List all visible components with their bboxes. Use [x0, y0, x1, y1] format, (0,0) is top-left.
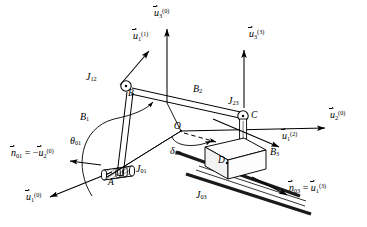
label-vector-u1-1: u1(1) — [133, 31, 148, 42]
vector-u3-0-sup: (0) — [162, 7, 169, 14]
label-angle-delta03: δ03 — [170, 146, 181, 157]
n03-rhs-sup: (3) — [319, 182, 326, 189]
axis-u2-0 — [182, 128, 325, 131]
label-body-b2: B2 — [193, 84, 202, 95]
vector-u1-2-sup: (2) — [290, 130, 297, 137]
angle-theta01-arc — [82, 102, 153, 196]
link-b1 — [117, 92, 133, 176]
body-b3-block — [205, 138, 266, 179]
n03-arrow — [252, 177, 287, 195]
label-joint-j03: J03 — [196, 190, 207, 201]
vector-u3-3-sup: (3) — [257, 28, 264, 35]
body-b1-index: 1 — [86, 115, 89, 122]
figure-canvas: u3(0) u1(1) u3(3) u2(0) u1(2) u1(0) n01 … — [0, 0, 367, 227]
label-point-d: D — [218, 156, 225, 166]
label-point-o: O — [174, 122, 181, 132]
vector-u1-1-base: u — [133, 31, 138, 41]
angle-delta03-index: 03 — [175, 149, 181, 156]
vector-u1-1-sup: (1) — [141, 30, 148, 37]
n01-rhs-base: u — [38, 148, 43, 158]
label-equation-n03: n03 = u1(3) — [289, 183, 326, 194]
n01-arrow — [70, 161, 101, 165]
label-point-b: B — [128, 89, 134, 99]
vector-u2-0-base: u — [330, 110, 335, 120]
n01-lhs-sub: 01 — [16, 152, 22, 159]
n03-rhs-base: u — [311, 183, 316, 193]
label-body-b1: B1 — [80, 112, 89, 123]
n01-equals: = — [25, 147, 31, 158]
label-vector-u3-3: u3(3) — [249, 29, 264, 40]
axis-u1-1 — [120, 51, 149, 85]
joint-j12-index: 12 — [90, 75, 96, 82]
vector-u2-0-sup: (0) — [338, 109, 345, 116]
body-b3-index: 3 — [276, 150, 279, 157]
joint-j23-index: 23 — [232, 99, 238, 106]
angle-theta01-index: 01 — [75, 139, 81, 146]
n03-lhs-sub: 03 — [294, 187, 300, 194]
label-vector-u2-0: u2(0) — [330, 110, 345, 121]
n01-lhs-base: n — [11, 148, 16, 158]
vector-u1-0-base: u — [26, 192, 31, 202]
label-angle-theta01: θ01 — [70, 136, 81, 147]
label-vector-u3-0: u3(0) — [154, 8, 169, 19]
body-b2-index: 2 — [199, 87, 202, 94]
label-vector-u1-2: u1(2) — [282, 131, 297, 142]
joint-j03-index: 03 — [200, 193, 206, 200]
label-joint-j01: J01 — [136, 164, 147, 175]
label-equation-n01: n01 = −u2(0) — [11, 148, 54, 159]
label-joint-j23: J23 — [228, 96, 239, 107]
n01-rhs-sup: (0) — [47, 147, 54, 154]
vector-u3-3-base: u — [249, 29, 254, 39]
n03-equals: = — [303, 182, 309, 193]
label-joint-j12: J12 — [86, 72, 97, 83]
n03-lhs-base: n — [289, 183, 294, 193]
joint-j01-marker — [101, 166, 134, 180]
label-body-b3: B3 — [270, 147, 279, 158]
joint-j01-index: 01 — [140, 167, 146, 174]
label-point-c: C — [251, 111, 257, 121]
label-point-a: A — [108, 178, 114, 188]
label-vector-u1-0: u1(0) — [26, 192, 41, 203]
vector-u1-0-sup: (0) — [34, 191, 41, 198]
vector-u1-2-base: u — [282, 131, 287, 141]
angle-delta03-arc — [172, 133, 216, 146]
vector-u3-0-base: u — [154, 8, 159, 18]
